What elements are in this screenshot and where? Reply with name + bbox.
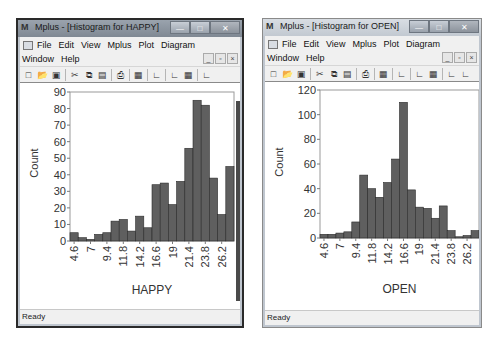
histogram-bar[interactable] — [78, 238, 86, 241]
histogram-bar[interactable] — [431, 218, 439, 238]
histogram-bar[interactable] — [455, 237, 463, 238]
histogram-bar[interactable] — [70, 233, 78, 241]
chart-icon[interactable]: ∟ — [396, 69, 407, 80]
histogram-bar[interactable] — [111, 221, 119, 241]
new-icon[interactable]: □ — [268, 69, 279, 80]
histogram-bar[interactable] — [368, 189, 376, 238]
vertical-scrollbar[interactable] — [236, 101, 240, 301]
chart-2-icon[interactable]: ∟ — [414, 69, 425, 80]
histogram-bar[interactable] — [86, 239, 94, 241]
histogram-bar[interactable] — [218, 215, 226, 241]
histogram-bar[interactable] — [152, 185, 160, 241]
menu-view[interactable]: View — [326, 39, 345, 49]
cut-icon[interactable]: ✂ — [69, 70, 80, 81]
title-bar[interactable]: M Mplus - [Histogram for HAPPY] — □ ✕ — [18, 20, 242, 37]
histogram-bar[interactable] — [160, 183, 168, 241]
histogram-bar[interactable] — [447, 231, 455, 238]
histogram-bar[interactable] — [328, 234, 336, 238]
chart-2-icon[interactable]: ∟ — [169, 70, 180, 81]
histogram-bar[interactable] — [471, 231, 479, 238]
histogram-bar[interactable] — [320, 234, 328, 238]
menu-file[interactable]: File — [37, 40, 52, 50]
copy-icon[interactable]: ⧉ — [83, 70, 94, 81]
document-icon[interactable] — [23, 41, 33, 50]
copy-icon[interactable]: ⧉ — [328, 69, 339, 80]
histogram-bar[interactable] — [209, 178, 217, 241]
menu-diagram[interactable]: Diagram — [161, 40, 195, 50]
cut-icon[interactable]: ✂ — [314, 69, 325, 80]
toolbar-separator — [165, 69, 166, 81]
minimize-button[interactable]: — — [409, 20, 429, 33]
menu-edit[interactable]: Edit — [304, 39, 320, 49]
menu-plot[interactable]: Plot — [138, 40, 154, 50]
histogram-bar[interactable] — [185, 148, 193, 241]
close-button[interactable]: ✕ — [449, 20, 479, 33]
chart-4-icon[interactable]: ∟ — [446, 69, 457, 80]
menu-mplus[interactable]: Mplus — [107, 40, 131, 50]
menu-bar: File Edit View Mplus Plot Diagram Window… — [20, 37, 240, 66]
histogram-bar[interactable] — [392, 159, 400, 238]
histogram-bar[interactable] — [144, 228, 152, 241]
histogram-bar[interactable] — [415, 207, 423, 238]
paste-icon[interactable]: ▤ — [342, 69, 353, 80]
mdi-close-button[interactable]: × — [227, 53, 238, 64]
document-icon[interactable] — [268, 40, 278, 49]
chart-icon[interactable]: ∟ — [151, 70, 162, 81]
menu-help[interactable]: Help — [306, 53, 325, 63]
menu-plot[interactable]: Plot — [383, 39, 399, 49]
print-icon[interactable]: ⎙ — [115, 70, 126, 81]
histogram-bar[interactable] — [344, 232, 352, 238]
histogram-bar[interactable] — [103, 233, 111, 241]
chart-3-icon[interactable]: ▦ — [183, 70, 194, 81]
close-button[interactable]: ✕ — [210, 21, 240, 34]
print-icon[interactable]: ⎙ — [360, 69, 371, 80]
minimize-button[interactable]: — — [170, 21, 190, 34]
mdi-restore-button[interactable]: ▫ — [215, 53, 226, 64]
histogram-bar[interactable] — [201, 105, 209, 241]
histogram-bar[interactable] — [127, 231, 135, 241]
mdi-restore-button[interactable]: ▫ — [454, 52, 465, 63]
mdi-minimize-button[interactable]: _ — [203, 53, 214, 64]
menu-help[interactable]: Help — [61, 54, 80, 64]
histogram-bar[interactable] — [463, 236, 471, 238]
histogram-bar[interactable] — [226, 167, 234, 242]
histogram-bar[interactable] — [352, 222, 360, 238]
histogram-bar[interactable] — [168, 205, 176, 241]
histogram-bar[interactable] — [136, 216, 144, 241]
histogram-bar[interactable] — [177, 181, 185, 241]
chart-4-icon[interactable]: ∟ — [201, 70, 212, 81]
histogram-bar[interactable] — [423, 208, 431, 238]
histogram-bar[interactable] — [400, 102, 408, 238]
histogram-bar[interactable] — [193, 100, 201, 241]
menu-mplus[interactable]: Mplus — [352, 39, 376, 49]
menu-window[interactable]: Window — [22, 54, 54, 64]
histogram-bar[interactable] — [95, 234, 103, 241]
menu-edit[interactable]: Edit — [59, 40, 75, 50]
chart-5-icon[interactable]: ∟ — [460, 69, 471, 80]
histogram-bar[interactable] — [119, 219, 127, 241]
table-icon[interactable]: ▦ — [378, 69, 389, 80]
maximize-button[interactable]: □ — [429, 20, 449, 33]
histogram-bar[interactable] — [376, 197, 384, 238]
menu-diagram[interactable]: Diagram — [406, 39, 440, 49]
histogram-bar[interactable] — [439, 206, 447, 238]
open-icon[interactable]: 📂 — [37, 70, 48, 81]
save-icon[interactable]: ▣ — [296, 69, 307, 80]
open-icon[interactable]: 📂 — [282, 69, 293, 80]
maximize-button[interactable]: □ — [190, 21, 210, 34]
histogram-bar[interactable] — [407, 190, 415, 238]
chart-3-icon[interactable]: ▦ — [428, 69, 439, 80]
histogram-bar[interactable] — [384, 183, 392, 239]
histogram-bar[interactable] — [336, 233, 344, 238]
menu-file[interactable]: File — [282, 39, 297, 49]
menu-window[interactable]: Window — [267, 53, 299, 63]
new-icon[interactable]: □ — [23, 70, 34, 81]
mdi-minimize-button[interactable]: _ — [442, 52, 453, 63]
table-icon[interactable]: ▦ — [133, 70, 144, 81]
mdi-close-button[interactable]: × — [466, 52, 477, 63]
title-bar[interactable]: M Mplus - [Histogram for OPEN] — □ ✕ — [263, 19, 481, 36]
paste-icon[interactable]: ▤ — [97, 70, 108, 81]
histogram-bar[interactable] — [360, 175, 368, 238]
menu-view[interactable]: View — [81, 40, 100, 50]
save-icon[interactable]: ▣ — [51, 70, 62, 81]
